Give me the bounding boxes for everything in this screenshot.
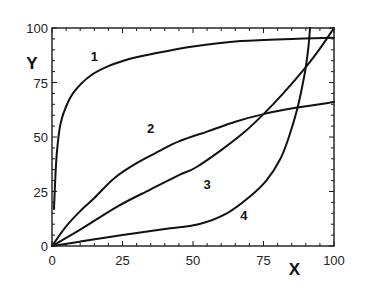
y-tick-label: 0	[41, 239, 48, 254]
x-tick-label: 0	[48, 253, 55, 268]
x-tick-label: 25	[115, 253, 129, 268]
curve-label-3: 3	[203, 177, 210, 192]
x-tick-label: 100	[323, 253, 345, 268]
curve-label-1: 1	[91, 49, 98, 64]
x-tick-labels: 0255075100	[48, 253, 344, 268]
x-axis-title: X	[289, 260, 301, 279]
chart: 0255075100 0255075100 1234 X Y	[0, 0, 367, 295]
curve-labels: 1234	[91, 49, 248, 223]
curve-label-4: 4	[240, 208, 248, 223]
y-axis-title: Y	[26, 54, 38, 73]
y-tick-label: 25	[34, 185, 48, 200]
x-tick-label: 50	[186, 253, 200, 268]
curve-label-2: 2	[147, 121, 154, 136]
x-tick-label: 75	[256, 253, 270, 268]
y-tick-label: 75	[34, 76, 48, 91]
y-tick-label: 50	[34, 130, 48, 145]
y-tick-label: 100	[26, 21, 48, 36]
